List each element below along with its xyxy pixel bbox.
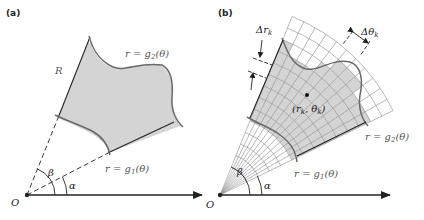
outer-curve-label: r = g2(θ) bbox=[365, 131, 409, 144]
panel-b-label: (b) bbox=[218, 8, 233, 18]
delta-r-dash-outer bbox=[253, 58, 272, 65]
fan-ray bbox=[220, 180, 246, 195]
delta-r-arrow-bottom bbox=[251, 73, 253, 90]
panel-a: (a) R r = g2(θ) r = g1(θ) β α O bbox=[6, 8, 202, 208]
alpha-arc bbox=[257, 176, 262, 195]
region-r-shaded bbox=[250, 40, 371, 160]
outer-curve-label: r = g2(θ) bbox=[125, 48, 169, 61]
delta-r-dash-inner bbox=[248, 71, 266, 78]
beta-label: β bbox=[236, 166, 243, 177]
delta-theta-dash-right bbox=[360, 41, 370, 56]
polar-region-diagram: (a) R r = g2(θ) r = g1(θ) β α O (b) bbox=[0, 0, 424, 220]
origin-label: O bbox=[11, 197, 19, 208]
alpha-arc bbox=[63, 177, 68, 195]
delta-r-label: Δrk bbox=[255, 24, 272, 37]
alpha-label: α bbox=[69, 180, 76, 191]
alpha-label: α bbox=[264, 180, 271, 191]
sample-point bbox=[305, 93, 309, 97]
dashed-ray-beta bbox=[27, 118, 58, 195]
origin-label: O bbox=[206, 199, 214, 210]
delta-theta-dash-left bbox=[343, 31, 353, 44]
panel-b: (b) Δrk Δθk (rk, θk) r = g2(θ) r = g1(θ) bbox=[206, 8, 409, 210]
origin-point bbox=[218, 193, 222, 197]
origin-point bbox=[25, 193, 29, 197]
fan-ray bbox=[220, 169, 235, 195]
fan-rays bbox=[220, 167, 247, 195]
region-label: R bbox=[54, 65, 63, 76]
inner-curve-label: r = g1(θ) bbox=[294, 168, 338, 181]
beta-label: β bbox=[47, 167, 54, 178]
fan-ray bbox=[220, 182, 247, 195]
delta-r-arrow-top bbox=[260, 40, 262, 57]
delta-theta-label: Δθk bbox=[360, 26, 379, 39]
inner-curve-label: r = g1(θ) bbox=[105, 163, 149, 176]
panel-a-label: (a) bbox=[6, 8, 20, 18]
